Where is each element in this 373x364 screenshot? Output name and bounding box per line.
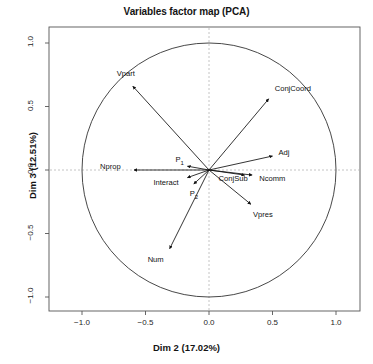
x-tick-label: −0.5 [138, 318, 154, 327]
pca-variables-factor-map: Variables factor map (PCA) −1.0−0.50.00.… [0, 0, 373, 364]
x-tick-label: 0.0 [203, 318, 214, 327]
variable-label-interact: Interact [153, 178, 178, 187]
variable-arrow-conjcoord [209, 99, 269, 170]
variable-arrow-p2 [194, 170, 209, 184]
x-tick-label: 0.5 [267, 318, 278, 327]
y-axis-title: Dim 3 (12.51%) [27, 86, 38, 246]
variable-arrow-vpart [133, 86, 209, 170]
variable-label-ncomm: Ncomm [259, 174, 285, 183]
variable-label-vpart: Vpart [117, 69, 135, 78]
variable-label-p1: P1 [175, 155, 183, 166]
variable-label-adj: Adj [279, 148, 290, 157]
y-tick-label: −1.0 [26, 283, 35, 309]
plot-area [0, 0, 373, 364]
variable-label-conjcoord: ConjCoord [275, 84, 311, 93]
x-tick-label: 1.0 [330, 318, 341, 327]
variable-arrows [133, 86, 273, 249]
variable-label-num: Num [148, 255, 164, 264]
variable-label-conjsub: ConjSub [219, 174, 248, 183]
variable-label-vpres: Vpres [253, 210, 273, 219]
x-tick-label: −1.0 [74, 318, 90, 327]
x-axis-title: Dim 2 (17.02%) [0, 342, 373, 353]
variable-label-p2: P2 [190, 189, 198, 200]
y-tick-label: 1.0 [26, 29, 35, 55]
variable-label-nprop: Nprop [100, 162, 121, 171]
